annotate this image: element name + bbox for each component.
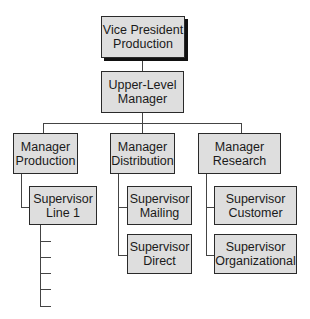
node-label-line1: Supervisor [33, 192, 93, 206]
connector-distribution-mailing [118, 207, 127, 208]
connector-bus-mgr-distribution [142, 123, 143, 133]
connector-research-customer [206, 207, 214, 208]
node-label-line2: Direct [143, 254, 176, 268]
connector-upper-bus [142, 113, 143, 123]
org-chart: Vice President Production Upper-Level Ma… [0, 0, 310, 319]
node-supervisor-organizational: Supervisor Organizational [214, 234, 297, 274]
node-label-line1: Vice President [103, 23, 183, 37]
node-label-line1: Manager [118, 140, 167, 154]
connector-research-stem [206, 174, 207, 255]
node-label-line2: Customer [228, 206, 282, 220]
node-supervisor-direct: Supervisor Direct [127, 234, 192, 274]
node-vice-president-production: Vice President Production [101, 16, 185, 58]
subordinate-tick [40, 257, 51, 258]
node-manager-distribution: Manager Distribution [110, 133, 175, 174]
node-label-line1: Manager [21, 140, 70, 154]
node-label-line1: Supervisor [130, 192, 190, 206]
connector-distribution-stem [118, 174, 119, 255]
connector-vp-upper [142, 58, 143, 71]
node-supervisor-mailing: Supervisor Mailing [127, 186, 192, 225]
node-label-line1: Manager [215, 140, 264, 154]
subordinate-tick [40, 306, 51, 307]
connector-production-line1 [21, 207, 29, 208]
node-label-line1: Supervisor [130, 240, 190, 254]
connector-line1-stem [40, 225, 41, 306]
node-label-line2: Production [113, 37, 173, 51]
connector-production-stem [21, 174, 22, 207]
node-label-line1: Upper-Level [108, 78, 176, 92]
connector-bus-mgr-production [43, 123, 44, 133]
node-upper-level-manager: Upper-Level Manager [101, 71, 184, 113]
node-label-line2: Mailing [140, 206, 180, 220]
connector-research-organizational [206, 255, 214, 256]
node-label-line2: Research [213, 154, 267, 168]
connector-bus-mgr-research [241, 123, 242, 133]
node-label-line2: Organizational [215, 254, 296, 268]
connector-distribution-direct [118, 255, 127, 256]
node-label-line1: Supervisor [226, 240, 286, 254]
node-label-line1: Supervisor [226, 192, 286, 206]
node-label-line2: Distribution [111, 154, 174, 168]
node-label-line2: Manager [118, 92, 167, 106]
node-supervisor-line-1: Supervisor Line 1 [29, 186, 97, 225]
subordinate-tick [40, 241, 51, 242]
node-manager-research: Manager Research [198, 133, 281, 174]
subordinate-tick [40, 273, 51, 274]
node-supervisor-customer: Supervisor Customer [214, 186, 297, 225]
node-label-line2: Production [16, 154, 76, 168]
node-manager-production: Manager Production [13, 133, 78, 174]
subordinate-tick [40, 289, 51, 290]
node-label-line2: Line 1 [46, 206, 80, 220]
